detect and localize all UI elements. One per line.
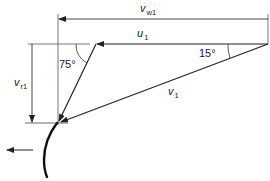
v1-arrow (61, 44, 268, 122)
velocity-diagram (0, 0, 270, 181)
vr1-dimension (25, 44, 68, 123)
v1-label: v1 (168, 86, 179, 100)
relative-velocity-arrow (59, 44, 96, 121)
angle-75-label: 75° (59, 59, 76, 70)
vw1-label: vw1 (140, 3, 156, 17)
vr1-label: vr1 (14, 77, 27, 91)
blade-profile (44, 123, 57, 177)
angle-15-arc (228, 44, 230, 58)
angle-75-arc (76, 44, 87, 63)
u1-label: u1 (137, 28, 148, 42)
angle-15-label: 15° (199, 48, 216, 59)
vw1-dimension (58, 14, 268, 125)
